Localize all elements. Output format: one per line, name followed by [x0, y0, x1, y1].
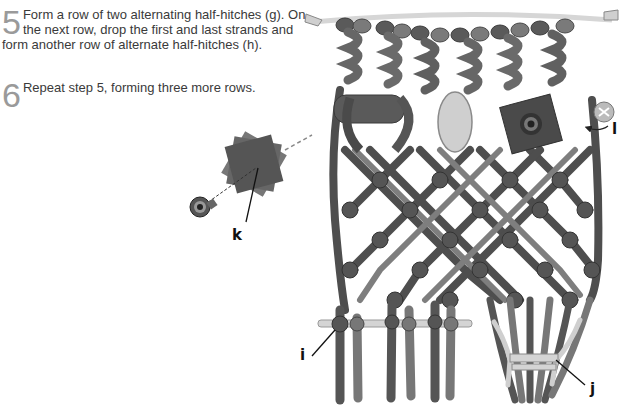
callout-k: k: [232, 226, 242, 244]
square-button-attached: [500, 94, 563, 154]
callout-l: l: [612, 120, 617, 138]
callout-i: i: [300, 346, 305, 364]
macrame-illustration: [0, 0, 624, 406]
round-button: [594, 102, 614, 122]
lower-dowel-section: [312, 305, 472, 400]
button-stack-exploded: [190, 131, 312, 222]
cord-loop: [334, 95, 409, 150]
knot-columns: [336, 18, 574, 90]
wrapped-tassel: [490, 300, 590, 400]
callout-j: j: [590, 380, 595, 398]
wooden-bead: [438, 92, 472, 152]
